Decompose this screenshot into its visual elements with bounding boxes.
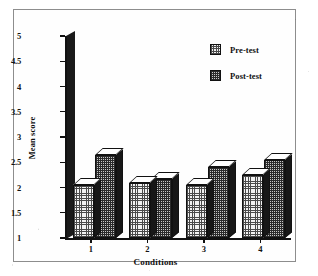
legend-swatch-post-test-icon [210,70,221,81]
bar-side-face [172,173,179,238]
bar-side-face [94,179,101,238]
legend-swatch-pre-test-icon [210,44,221,55]
bar-pre-test-condition-3 [186,185,207,238]
bar-side-face [263,169,270,238]
legend-label-pre-test: Pre-test [230,45,259,55]
bar-pre-test-condition-2 [129,183,150,238]
bar-side-face [229,161,236,238]
legend-item-pre-test: Pre-test [210,44,262,55]
x-axis-title: Conditions [14,257,297,267]
bar-pre-test-condition-4 [242,175,263,238]
plot-area: 11.522.533.544.55 1234 Mean score Condit… [14,10,295,261]
bar-front-face [242,175,263,238]
bar-side-face [285,154,292,238]
bar-side-face [116,149,123,238]
bar-pre-test-condition-1 [73,185,94,238]
chart-frame: 11.522.533.544.55 1234 Mean score Condit… [13,9,296,262]
legend-item-post-test: Post-test [210,70,262,81]
chart-legend: Pre-test Post-test [210,44,262,96]
bar-front-face [186,185,207,238]
legend-label-post-test: Post-test [230,71,262,81]
bar-side-face [207,179,214,238]
bar-front-face [129,183,150,238]
y-axis-title: Mean score [27,117,37,160]
bar-side-face [150,178,157,238]
bar-front-face [73,185,94,238]
